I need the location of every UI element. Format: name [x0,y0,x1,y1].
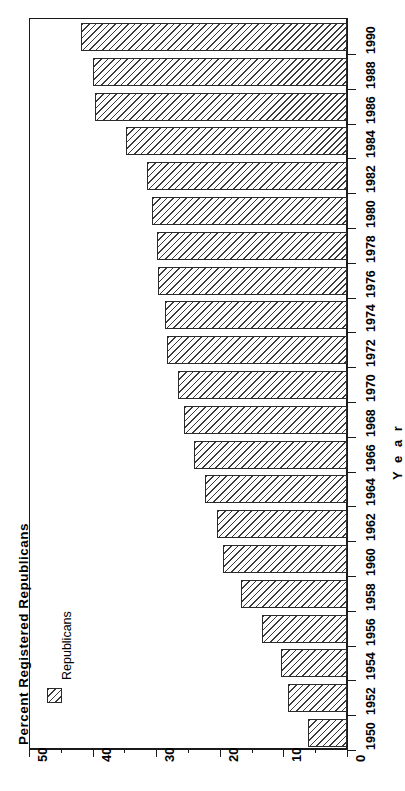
category-tick-label-1970: 1970 [364,374,378,402]
bar-1964 [205,475,347,503]
category-tick-1976 [348,298,356,299]
bar-1988 [93,58,347,86]
category-tick-label-1962: 1962 [364,513,378,541]
value-tick-minor-45 [61,748,62,753]
category-tick-1980 [348,228,356,229]
category-tick-1982 [348,193,356,194]
category-tick-1972 [348,367,356,368]
category-tick-label-1952: 1952 [364,687,378,715]
category-tick-label-1990: 1990 [364,26,378,54]
value-tick-minor-15 [252,748,253,753]
value-tick-label-10: 10 [289,748,304,762]
category-tick-1952 [348,715,356,716]
category-tick-label-1964: 1964 [364,479,378,507]
value-tick-minor-25 [188,748,189,753]
category-tick-label-1988: 1988 [364,61,378,89]
category-tick-1978 [348,263,356,264]
bar-1960 [223,545,347,573]
bar-1956 [262,615,347,643]
legend-swatch-republicans [47,688,62,703]
value-tick-minor-5 [315,748,316,753]
category-tick-label-1980: 1980 [364,200,378,228]
bar-1984 [126,127,347,155]
value-tick-label-40: 40 [99,748,114,762]
category-tick-1984 [348,158,356,159]
category-tick-1986 [348,124,356,125]
legend-label-republicans: Republicans [60,611,74,680]
category-tick-1974 [348,332,356,333]
value-axis-title: Percent Registered Republicans [16,523,31,745]
category-tick-label-1982: 1982 [364,165,378,193]
category-tick-label-1976: 1976 [364,270,378,298]
bar-1954 [281,649,347,677]
bar-1966 [194,441,347,469]
bar-1990 [81,23,347,51]
category-tick-label-1966: 1966 [364,444,378,472]
category-tick-1950 [348,750,356,751]
category-tick-1970 [348,402,356,403]
bar-1980 [152,197,347,225]
bar-1970 [178,371,347,399]
value-tick-30 [156,748,157,757]
category-tick-1966 [348,472,356,473]
value-tick-minor-35 [124,748,125,753]
category-tick-1956 [348,646,356,647]
category-tick-label-1972: 1972 [364,339,378,367]
bar-1986 [95,93,347,121]
category-tick-label-1978: 1978 [364,235,378,263]
bar-1976 [158,267,347,295]
plot-top-border [29,18,348,19]
bar-1952 [288,684,347,712]
category-tick-label-1984: 1984 [364,131,378,159]
bar-1958 [241,580,347,608]
category-tick-1988 [348,89,356,90]
bar-1962 [217,510,347,538]
value-tick-20 [220,748,221,757]
category-tick-label-1958: 1958 [364,583,378,611]
category-tick-label-1974: 1974 [364,305,378,333]
bar-1950 [308,719,347,747]
value-tick-10 [283,748,284,757]
category-tick-1990 [348,54,356,55]
category-tick-label-1954: 1954 [364,653,378,681]
category-tick-label-1968: 1968 [364,409,378,437]
category-tick-1962 [348,541,356,542]
bar-1968 [184,406,347,434]
category-tick-label-1986: 1986 [364,96,378,124]
category-tick-1958 [348,611,356,612]
value-tick-label-30: 30 [162,748,177,762]
bar-1974 [165,301,347,329]
value-tick-40 [93,748,94,757]
bar-1978 [157,232,347,260]
category-tick-1968 [348,437,356,438]
value-tick-label-20: 20 [226,748,241,762]
bar-1982 [147,162,347,190]
category-tick-label-1960: 1960 [364,548,378,576]
value-tick-50 [29,748,30,757]
category-tick-1960 [348,576,356,577]
bar-1972 [167,336,347,364]
value-tick-label-0: 0 [353,755,368,762]
category-tick-1954 [348,680,356,681]
category-axis-title: Y e a r [390,424,405,480]
category-tick-1964 [348,506,356,507]
category-tick-label-1956: 1956 [364,618,378,646]
category-tick-label-1950: 1950 [364,722,378,750]
value-tick-label-50: 50 [35,748,50,762]
